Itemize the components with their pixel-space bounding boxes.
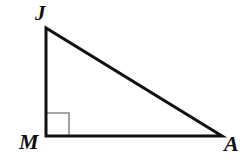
right-angle-marker — [46, 113, 69, 136]
vertex-label-j: J — [35, 3, 46, 24]
triangle-shape-jma — [46, 28, 222, 136]
vertex-label-m: M — [19, 131, 39, 153]
vertex-label-a: A — [224, 133, 239, 155]
figure-canvas: J M A — [0, 0, 248, 167]
